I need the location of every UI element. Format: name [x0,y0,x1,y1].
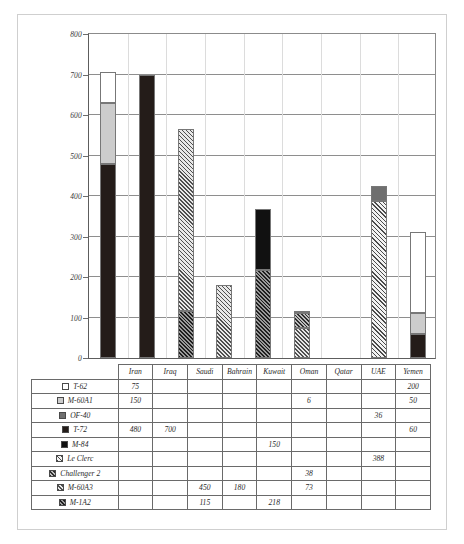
table-row: Le Clerc388 [32,452,431,467]
table-cell [153,437,188,452]
table-cell [396,452,431,467]
bar-slot [282,34,321,358]
bar-slot [360,34,399,358]
table-cell [257,408,292,423]
table-cell [153,379,188,394]
table-corner-cell [32,365,119,380]
legend-swatch-icon [56,455,63,462]
table-cell: 180 [222,481,257,496]
table-cell: 200 [396,379,431,394]
legend-swatch-icon [59,499,66,506]
table-cell [187,466,222,481]
legend-label: M-60A1 [68,396,93,405]
stacked-bar [216,285,232,358]
table-cell [396,481,431,496]
table-cell [222,452,257,467]
bar-slot [321,34,360,358]
y-axis-tick-label: 700 [70,70,82,79]
y-axis-tick-label: 200 [70,273,82,282]
bar-segment [371,201,387,358]
table-column-header: Oman [292,365,327,380]
table-cell: 115 [187,495,222,510]
table-cell [222,408,257,423]
table-cell: 6 [292,394,327,409]
legend-label: T-72 [73,425,87,434]
legend-label: OF-40 [70,411,90,420]
plot-area [88,33,436,359]
table-cell: 38 [292,466,327,481]
legend-swatch-icon [49,470,56,477]
chart-page: 0100200300400500600700800 IranIraqSaudiB… [0,0,464,544]
table-cell [257,423,292,438]
table-cell [153,452,188,467]
bar-segment [178,129,194,311]
table-cell [153,394,188,409]
bar-segment [216,285,232,358]
table-cell [396,466,431,481]
bar-segment [100,72,116,102]
table-column-header: Saudi [187,365,222,380]
table-row: T-6275200 [32,379,431,394]
bar-slot [398,34,437,358]
table-column-header: Bahrain [222,365,257,380]
table-cell [326,379,361,394]
table-cell [222,466,257,481]
bar-slot [205,34,244,358]
y-axis-tick-label: 500 [70,151,82,160]
legend-entry: Le Clerc [32,452,119,467]
table-cell: 60 [396,423,431,438]
bar-slot [166,34,205,358]
bar-segment [294,328,310,358]
table-cell [361,394,396,409]
y-axis: 0100200300400500600700800 [50,27,86,367]
table-cell [257,466,292,481]
table-cell [361,495,396,510]
stacked-bar [100,72,116,358]
bar-slot [244,34,283,358]
table-row: T-7248070060 [32,423,431,438]
legend-swatch-icon [57,484,64,491]
legend-entry: T-62 [32,379,119,394]
legend-swatch-icon [57,397,64,404]
legend-label: T-62 [73,382,87,391]
table-cell [222,423,257,438]
table-cell [361,423,396,438]
bar-segment [100,103,116,164]
legend-swatch-icon [59,412,66,419]
legend-entry: M-1A2 [32,495,119,510]
table-cell: 450 [187,481,222,496]
table-cell [361,437,396,452]
data-table: IranIraqSaudiBahrainKuwaitOmanQatarUAEYe… [31,364,431,510]
table-row: M-60A345018073 [32,481,431,496]
table-cell [118,437,153,452]
y-axis-tick-label: 300 [70,232,82,241]
table-cell: 150 [257,437,292,452]
bar-segment [178,311,194,358]
legend-label: M-60A3 [68,483,93,492]
table-cell: 73 [292,481,327,496]
table-cell [326,394,361,409]
bar-segment [410,232,426,313]
legend-entry: M-60A1 [32,394,119,409]
table-row: M-60A1150650 [32,394,431,409]
table-cell [257,481,292,496]
table-row: Challenger 238 [32,466,431,481]
table-cell [326,452,361,467]
table-cell [326,466,361,481]
table-cell [187,379,222,394]
table-cell: 218 [257,495,292,510]
table-cell [153,466,188,481]
table-cell [326,437,361,452]
legend-entry: M-84 [32,437,119,452]
table-cell: 480 [118,423,153,438]
y-axis-tick-label: 400 [70,192,82,201]
table-header-row: IranIraqSaudiBahrainKuwaitOmanQatarUAEYe… [32,365,431,380]
table-column-header: Iraq [153,365,188,380]
table-cell [326,495,361,510]
table-cell [187,408,222,423]
legend-label: M-1A2 [70,498,91,507]
legend-label: Le Clerc [67,454,93,463]
bar-segment [410,334,426,358]
table-cell: 388 [361,452,396,467]
bar-segment [139,75,155,359]
